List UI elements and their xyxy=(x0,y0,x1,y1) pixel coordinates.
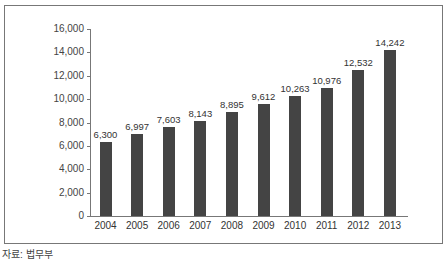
y-tick-label: 16,000 xyxy=(34,24,84,34)
y-tick-mark xyxy=(87,123,90,124)
y-tick-mark xyxy=(87,216,90,217)
y-tick-label: 6,000 xyxy=(34,141,84,151)
x-tick-label: 2010 xyxy=(277,220,313,231)
bar xyxy=(289,96,301,216)
y-tick-mark xyxy=(87,193,90,194)
y-tick-mark xyxy=(87,99,90,100)
x-axis xyxy=(90,216,408,217)
bar-value-label: 14,242 xyxy=(370,38,410,48)
y-tick-label: 0 xyxy=(34,211,84,221)
x-tick-label: 2012 xyxy=(340,220,376,231)
x-tick-label: 2008 xyxy=(214,220,250,231)
y-tick-label: 10,000 xyxy=(34,94,84,104)
y-tick-mark xyxy=(87,169,90,170)
bar xyxy=(258,104,270,216)
y-tick-label: 14,000 xyxy=(34,47,84,57)
y-tick-label: 12,000 xyxy=(34,71,84,81)
x-tick-label: 2005 xyxy=(119,220,155,231)
bar-value-label: 8,143 xyxy=(180,109,220,119)
x-tick-label: 2006 xyxy=(151,220,187,231)
y-tick-label: 8,000 xyxy=(34,118,84,128)
bar xyxy=(352,70,364,216)
bar xyxy=(384,50,396,216)
bar-value-label: 10,976 xyxy=(307,76,347,86)
y-tick-mark xyxy=(87,146,90,147)
x-tick-label: 2007 xyxy=(182,220,218,231)
bar xyxy=(131,134,143,216)
source-note: 자료: 법무부 xyxy=(2,250,53,260)
x-tick-label: 2011 xyxy=(309,220,345,231)
bar xyxy=(321,88,333,216)
bar-value-label: 12,532 xyxy=(338,58,378,68)
y-tick-mark xyxy=(87,52,90,53)
bar xyxy=(194,121,206,216)
y-tick-mark xyxy=(87,29,90,30)
y-tick-label: 4,000 xyxy=(34,164,84,174)
x-tick-label: 2004 xyxy=(88,220,124,231)
y-tick-label: 2,000 xyxy=(34,188,84,198)
y-tick-mark xyxy=(87,76,90,77)
x-tick-label: 2013 xyxy=(372,220,408,231)
bar xyxy=(226,112,238,216)
y-axis xyxy=(90,29,91,217)
x-tick-label: 2009 xyxy=(246,220,282,231)
bar xyxy=(163,127,175,216)
bar xyxy=(100,142,112,216)
